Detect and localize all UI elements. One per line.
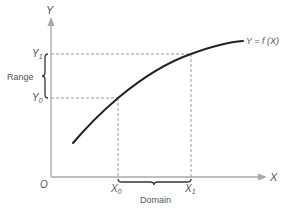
y-axis-label: Y [46,4,54,16]
y-axis-arrow-icon [48,17,55,26]
function-curve [73,41,243,143]
x-axis-label: X [269,171,278,183]
range-label: Range [7,72,34,82]
domain-label: Domain [140,195,171,205]
origin-label: O [40,179,48,190]
domain-range-diagram: Y X O Y1 Y0 X0 X1 Range Domain Y = f (X) [0,0,291,208]
y0-label: Y0 [32,92,43,104]
x0-label: X0 [110,183,122,195]
function-label: Y = f (X) [246,36,279,46]
range-brace [42,54,48,98]
x1-label: X1 [184,183,196,195]
y1-label: Y1 [32,48,43,60]
x-axis-arrow-icon [258,174,267,181]
domain-brace [118,179,191,185]
guide-lines [51,54,191,177]
